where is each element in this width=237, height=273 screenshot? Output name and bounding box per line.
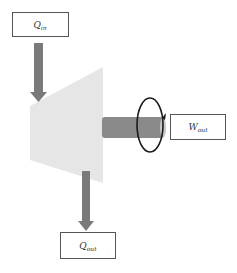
output-shaft (102, 117, 166, 138)
heat-out-arrow-icon (78, 171, 94, 231)
heat-in-arrow-icon (30, 43, 47, 102)
turbine-diagram: Qin Wout Qout (0, 0, 237, 273)
